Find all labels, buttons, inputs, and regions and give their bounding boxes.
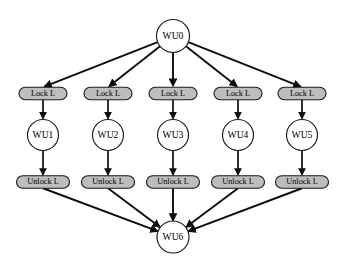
edge (109, 46, 160, 86)
wu6-label: WU6 (163, 231, 184, 242)
node-wu6: WU6 (157, 221, 189, 253)
node-lock-4: Lock L (214, 87, 262, 100)
edges-worker-to-unlock (43, 151, 302, 175)
node-wu5: WU5 (287, 120, 318, 151)
dependency-graph: Lock LLock LLock LLock LLock L WU1WU2WU3… (0, 0, 348, 271)
node-lock-2: Lock L (84, 87, 132, 100)
node-unlock-3: Unlock L (147, 176, 200, 189)
wu5-label: WU5 (292, 129, 313, 140)
node-lock-3: Lock L (149, 87, 197, 100)
worker-nodes: WU1WU2WU3WU4WU5 (28, 120, 318, 151)
node-unlock-2: Unlock L (82, 176, 135, 189)
node-lock-1: Lock L (19, 87, 67, 100)
diagram-canvas: Lock LLock LLock LLock LLock L WU1WU2WU3… (0, 0, 348, 271)
lock-2-label: Lock L (96, 89, 120, 98)
wu3-label: WU3 (163, 129, 184, 140)
node-wu0: WU0 (157, 20, 190, 53)
node-unlock-4: Unlock L (212, 176, 265, 189)
node-wu4: WU4 (223, 120, 254, 151)
node-lock-5: Lock L (278, 87, 326, 100)
unlock-3-label: Unlock L (157, 177, 189, 186)
wu1-label: WU1 (33, 129, 54, 140)
wu0-label: WU0 (163, 30, 184, 41)
edge (188, 188, 302, 231)
unlock-nodes: Unlock LUnlock LUnlock LUnlock LUnlock L (17, 176, 329, 189)
lock-3-label: Lock L (161, 89, 185, 98)
node-wu2: WU2 (93, 120, 124, 151)
node-unlock-1: Unlock L (17, 176, 70, 189)
wu4-label: WU4 (228, 129, 249, 140)
edge (43, 188, 158, 231)
unlock-5-label: Unlock L (286, 177, 318, 186)
lock-nodes: Lock LLock LLock LLock LLock L (19, 87, 326, 100)
unlock-1-label: Unlock L (27, 177, 59, 186)
unlock-2-label: Unlock L (92, 177, 124, 186)
edge (44, 42, 157, 87)
node-wu3: WU3 (158, 120, 189, 151)
edges-lock-to-worker (43, 100, 302, 119)
unlock-4-label: Unlock L (222, 177, 254, 186)
lock-1-label: Lock L (31, 89, 55, 98)
wu2-label: WU2 (98, 129, 119, 140)
lock-4-label: Lock L (226, 89, 250, 98)
edge (108, 188, 160, 227)
lock-5-label: Lock L (290, 89, 314, 98)
node-wu1: WU1 (28, 120, 59, 151)
edge (188, 42, 300, 87)
node-unlock-5: Unlock L (276, 176, 329, 189)
